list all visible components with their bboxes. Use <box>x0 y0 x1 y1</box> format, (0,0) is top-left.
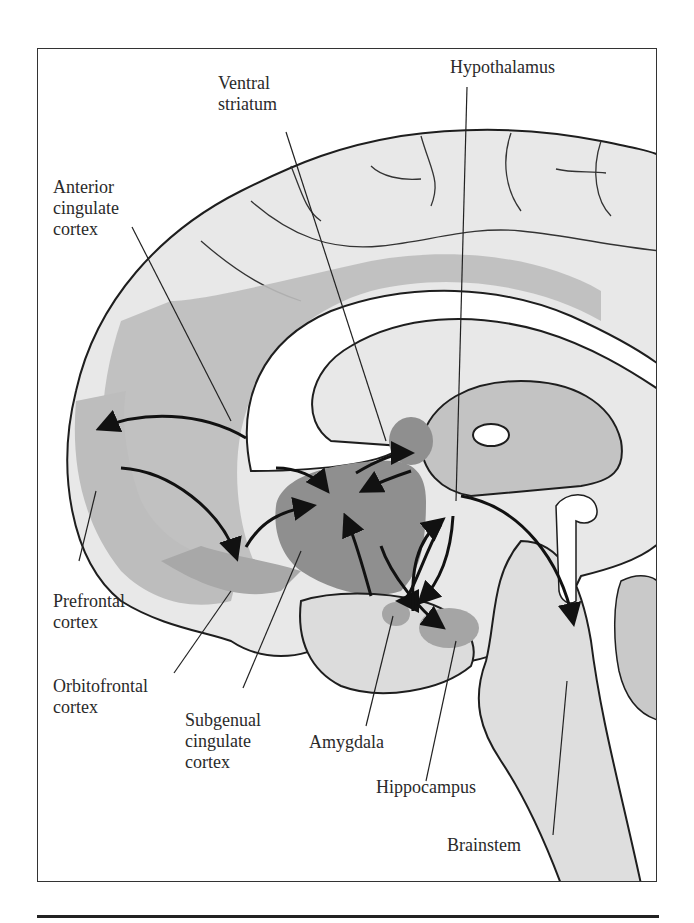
label-ventral-striatum: Ventral striatum <box>218 73 277 115</box>
label-amygdala: Amygdala <box>309 732 384 753</box>
label-subgenual-cingulate-cortex: Subgenual cingulate cortex <box>185 710 261 773</box>
label-anterior-cingulate-cortex: Anterior cingulate cortex <box>53 177 119 240</box>
label-hypothalamus: Hypothalamus <box>450 57 555 78</box>
amygdala-region <box>382 602 410 626</box>
ventral-striatum-region <box>389 417 433 465</box>
massa-intermedia <box>473 424 509 446</box>
cerebellum <box>615 576 657 721</box>
label-prefrontal-cortex: Prefrontal cortex <box>53 591 125 633</box>
brain-illustration <box>38 49 657 882</box>
label-brainstem: Brainstem <box>447 835 521 856</box>
label-orbitofrontal-cortex: Orbitofrontal cortex <box>53 676 148 718</box>
figure-frame: Hypothalamus Ventral striatum Anterior c… <box>37 48 657 882</box>
label-hippocampus: Hippocampus <box>376 777 476 798</box>
bottom-rule <box>37 915 659 918</box>
